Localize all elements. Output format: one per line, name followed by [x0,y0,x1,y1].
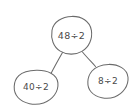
node-part-right-label: 8÷2 [98,76,118,86]
node-whole-label: 48÷2 [58,30,85,41]
number-bond-diagram: 48÷2 40÷2 8÷2 [0,0,139,109]
node-part-left[interactable]: 40÷2 [14,70,58,104]
node-whole[interactable]: 48÷2 [52,16,92,54]
node-part-left-label: 40÷2 [23,82,49,92]
diagram-canvas: 48÷2 40÷2 8÷2 [0,0,139,109]
connector-line-left [51,53,63,75]
connector-line-right [83,52,96,67]
node-part-right[interactable]: 8÷2 [88,64,128,98]
